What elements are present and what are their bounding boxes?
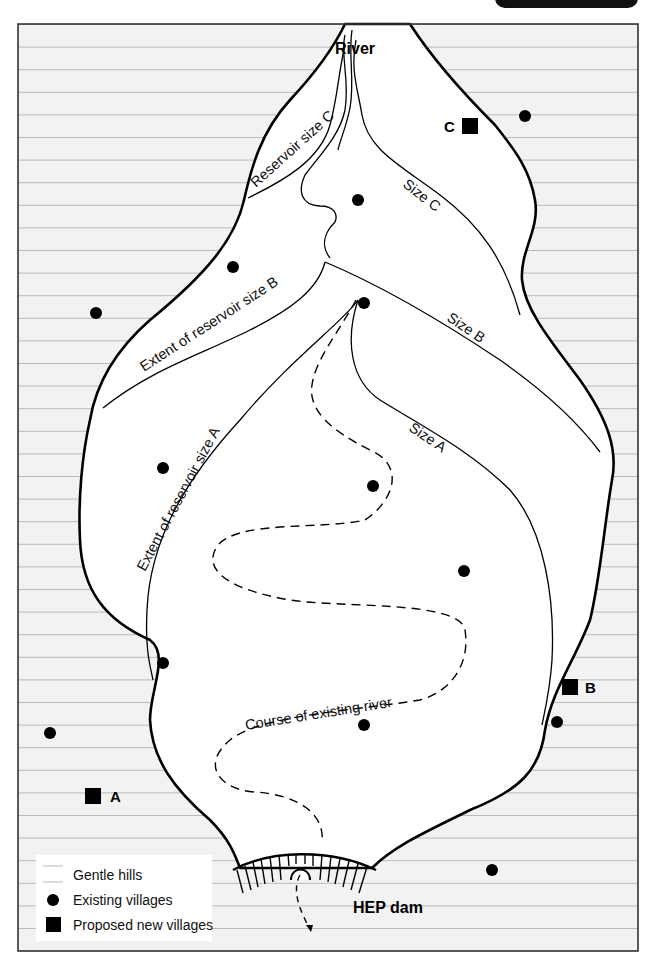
river-label: River — [335, 40, 375, 57]
reservoir-map: A B C River Reservoir size C Size C Exte… — [0, 0, 654, 968]
proposed-village-legend-icon — [46, 917, 61, 932]
existing-village-icon — [352, 194, 364, 206]
existing-village-icon — [227, 261, 239, 273]
existing-village-icon — [157, 462, 169, 474]
existing-village-icon — [458, 565, 470, 577]
existing-village-icon — [358, 297, 370, 309]
existing-village-icon — [551, 716, 563, 728]
legend-existing-villages-label: Existing villages — [73, 892, 173, 908]
existing-village-icon — [44, 727, 56, 739]
existing-village-icon — [486, 864, 498, 876]
existing-village-icon — [358, 719, 370, 731]
proposed-village-c-label: C — [444, 118, 455, 135]
hep-dam-label: HEP dam — [353, 899, 423, 916]
existing-village-icon — [367, 480, 379, 492]
legend: Gentle hills Existing villages Proposed … — [36, 855, 213, 941]
existing-village-legend-icon — [47, 894, 59, 906]
existing-village-icon — [519, 110, 531, 122]
proposed-village-a-label: A — [110, 788, 121, 805]
proposed-village-b-label: B — [585, 679, 596, 696]
proposed-village-c-icon — [462, 118, 478, 134]
legend-proposed-villages-label: Proposed new villages — [73, 917, 213, 933]
dam-outlet-arch — [291, 870, 310, 881]
proposed-village-b-icon — [562, 679, 578, 695]
existing-village-icon — [90, 307, 102, 319]
existing-village-icon — [157, 657, 169, 669]
proposed-village-a-icon — [85, 788, 101, 804]
legend-gentle-hills-label: Gentle hills — [73, 867, 142, 883]
